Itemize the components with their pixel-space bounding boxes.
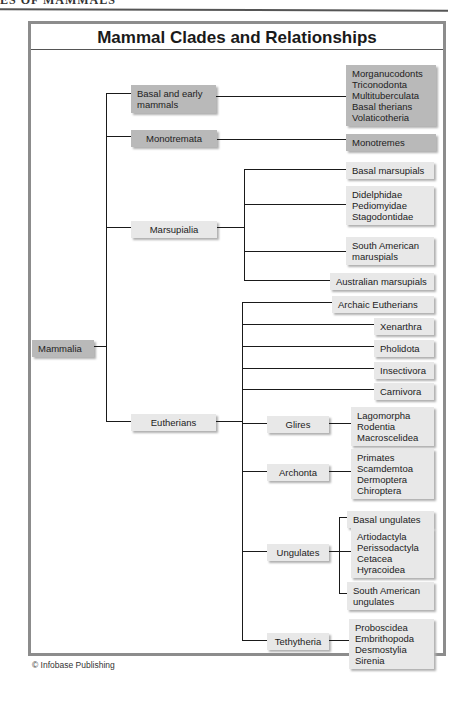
leaf-insectivora: Insectivora [374,362,434,379]
member: Sirenia [355,655,428,666]
label-line: South American [353,585,428,596]
member: Didelphidae [352,189,428,200]
leaf-basal-members: Morganucodonts Triconodonta Multitubercu… [346,65,436,126]
leaf-monotremes: Monotremes [346,134,436,151]
connector [242,640,267,641]
connector [242,423,267,424]
leaf-australian-marsupials: Australian marsupials [330,273,434,290]
node-marsupialia: Marsupialia [131,221,217,238]
node-ungulates: Ungulates [267,544,329,561]
leaf-basal-ungulates: Basal ungulates [347,511,434,528]
header-rule [0,8,448,12]
leaf-glires-members: Lagomorpha Rodentia Macroscelidea [351,407,434,446]
connector [217,139,346,140]
label-line: ungulates [353,596,428,607]
connector [242,551,267,552]
connector [106,136,131,137]
node-monotremata: Monotremata [131,130,217,147]
leaf-xenarthra: Xenarthra [374,318,434,335]
connector [339,517,347,518]
leaf-pholidota: Pholidota [374,340,434,357]
connector [244,204,346,205]
connector [217,227,244,228]
leaf-tethytheria-members: Proboscidea Embrithopoda Desmostylia Sir… [349,619,434,669]
member: Perissodactyla [357,542,428,553]
connector [106,227,131,228]
member: Morganucodonts [352,68,430,79]
connector [242,368,374,369]
label-line: maruspials [352,251,428,262]
node-mammalia: Mammalia [32,340,94,357]
node-glires: Glires [267,416,329,433]
node-basal-early-mammals: Basal and early mammals [131,85,216,113]
member: Scamdemtoa [357,463,428,474]
leaf-basal-marsupials: Basal marsupials [346,162,434,179]
label-line: South American [352,240,428,251]
label-line: mammals [137,99,210,110]
connector [244,169,346,170]
copyright-credit: © Infobase Publishing [32,660,115,670]
connector [329,551,339,552]
leaf-archaic-eutherians: Archaic Eutherians [332,296,434,313]
member: Proboscidea [355,622,428,633]
connector [94,346,106,347]
leaf-south-american-ungulates: South American ungulates [347,582,434,610]
connector [244,251,346,252]
member: Hyracoidea [357,564,428,575]
connector [329,423,351,424]
connector [339,593,347,594]
ungulate-branch-line [339,517,340,593]
connector [339,551,351,552]
member: Desmostylia [355,644,428,655]
connector [242,346,374,347]
node-eutherians: Eutherians [131,414,216,431]
member: Volaticotheria [352,112,430,123]
connector [106,93,131,94]
title-bar: Mammal Clades and Relationships [31,24,443,50]
leaf-south-american-marsupials: South American maruspials [346,237,434,265]
running-head: ES OF MAMMALS [0,0,116,8]
node-archonta: Archonta [267,464,329,481]
leaf-didelphidae-group: Didelphidae Pediomyidae Stagodontidae [346,186,434,225]
connector [216,96,346,97]
member: Basal therians [352,101,430,112]
connector [329,471,351,472]
member: Pediomyidae [352,200,428,211]
leaf-ungulate-members: Artiodactyla Perissodactyla Cetacea Hyra… [351,528,434,578]
connector [242,471,267,472]
leaf-archonta-members: Primates Scamdemtoa Dermoptera Chiropter… [351,449,434,499]
member: Triconodonta [352,79,430,90]
diagram-title: Mammal Clades and Relationships [31,28,443,48]
connector [242,324,374,325]
leaf-carnivora: Carnivora [374,383,434,400]
trunk-line [106,93,107,421]
connector [244,280,330,281]
member: Multituberculata [352,90,430,101]
member: Cetacea [357,553,428,564]
connector [329,640,349,641]
member: Primates [357,452,428,463]
member: Chiroptera [357,485,428,496]
member: Rodentia [357,421,428,432]
connector [216,421,242,422]
connector [242,389,374,390]
member: Artiodactyla [357,531,428,542]
member: Dermoptera [357,474,428,485]
marsupial-branch-line [244,169,245,280]
node-tethytheria: Tethytheria [267,633,329,650]
member: Lagomorpha [357,410,428,421]
member: Embrithopoda [355,633,428,644]
member: Stagodontidae [352,211,428,222]
connector [106,421,131,422]
connector [242,302,332,303]
label-line: Basal and early [137,88,210,99]
member: Macroscelidea [357,432,428,443]
